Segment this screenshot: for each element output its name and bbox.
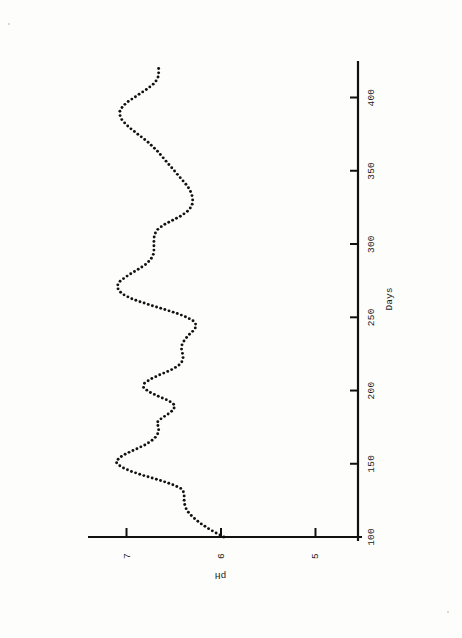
data-point-dot — [185, 507, 188, 510]
data-point-dot — [123, 103, 126, 106]
data-point-dot — [157, 428, 160, 431]
y-axis-title: pH — [215, 570, 226, 581]
data-point-dot — [123, 121, 126, 124]
data-point-dot — [184, 315, 187, 318]
data-point-dot — [147, 475, 150, 478]
data-point-dot — [124, 453, 127, 456]
data-point-dot — [185, 336, 188, 339]
data-point-dot — [180, 360, 183, 363]
data-point-dot — [158, 373, 161, 376]
data-point-dot — [133, 270, 136, 273]
data-point-dot — [144, 263, 147, 266]
data-point-dot — [179, 176, 182, 179]
data-point-dot — [182, 179, 185, 182]
data-point-dot — [155, 306, 158, 309]
data-point-dot — [120, 118, 123, 121]
data-point-dot — [115, 461, 118, 464]
data-point-dot — [183, 212, 186, 215]
chart-canvas — [66, 49, 396, 589]
data-point-dot — [147, 379, 150, 382]
data-point-dot — [162, 372, 165, 375]
data-point-dot — [137, 268, 140, 271]
data-point-dot — [192, 319, 195, 322]
data-point-dot — [159, 307, 162, 310]
data-point-dot — [200, 522, 203, 525]
data-point-dot — [156, 228, 159, 231]
data-point-dot — [122, 466, 125, 469]
data-point-dot — [154, 375, 157, 378]
data-point-dot — [162, 156, 165, 159]
data-point-dot — [142, 474, 145, 477]
x-axis-tick-label: 400 — [366, 89, 377, 107]
data-point-dot — [160, 417, 163, 420]
data-point-dot — [180, 314, 183, 317]
data-point-dot — [178, 364, 181, 367]
data-point-dot — [174, 366, 177, 369]
data-point-dot — [175, 217, 178, 220]
data-point-dot — [119, 280, 122, 283]
data-point-dot — [156, 150, 159, 153]
data-point-dot — [157, 67, 160, 70]
data-point-dot — [163, 308, 166, 311]
x-axis-ticks — [350, 98, 358, 537]
data-point-dot — [165, 398, 168, 401]
data-point-dot — [117, 287, 120, 290]
data-point-dot — [130, 470, 133, 473]
data-point-dot — [176, 312, 179, 315]
data-point-dot — [132, 449, 135, 452]
scan-speck — [447, 611, 449, 613]
data-point-dot — [181, 343, 184, 346]
data-point-dot — [180, 348, 183, 351]
y-axis-tick-label: 6 — [216, 553, 227, 559]
y-axis-tick-label: 5 — [310, 553, 321, 559]
data-point-dot — [190, 514, 193, 517]
data-point-dot — [157, 395, 160, 398]
data-point-dot — [121, 106, 124, 109]
data-point-dot — [161, 396, 164, 399]
data-point-dot — [207, 527, 210, 530]
data-point-dot — [159, 479, 162, 482]
data-point-dot — [186, 210, 189, 213]
data-point-dot — [153, 393, 156, 396]
data-point-dot — [127, 100, 130, 103]
data-point-dot — [139, 300, 142, 303]
data-point-dot — [183, 494, 186, 497]
data-point-dot — [134, 299, 137, 302]
data-point-dot — [126, 468, 129, 471]
scanned-page: 100150200250300350400 567 Days pH Figure… — [0, 0, 462, 638]
data-point-dot — [118, 464, 121, 467]
data-point-dot — [194, 323, 197, 326]
data-point-dot — [182, 356, 185, 359]
data-point-dot — [183, 499, 186, 502]
data-point-dot — [169, 400, 172, 403]
data-point-dot — [163, 415, 166, 418]
data-point-dot — [167, 412, 170, 415]
data-point-dot — [128, 451, 131, 454]
data-point-dot — [152, 249, 155, 252]
data-point-dot — [191, 203, 194, 206]
data-point-dot — [140, 265, 143, 268]
data-point-dot — [159, 153, 162, 156]
data-point-dot — [182, 490, 185, 493]
data-point-dot — [183, 503, 186, 506]
x-axis-tick-label: 300 — [366, 235, 377, 253]
data-point-dot — [134, 471, 137, 474]
data-point-dot — [152, 253, 155, 256]
data-point-dot — [122, 277, 125, 280]
data-point-dot — [171, 483, 174, 486]
data-point-dot — [118, 110, 121, 113]
data-point-dot — [126, 125, 129, 128]
data-point-dot — [147, 260, 150, 263]
data-point-dot — [191, 194, 194, 197]
data-point-dot — [134, 95, 137, 98]
data-point-dot — [143, 382, 146, 385]
data-point-dot — [165, 160, 168, 163]
data-point-dot — [148, 85, 151, 88]
data-point-dot — [219, 534, 222, 537]
figure-rotated-container: 100150200250300350400 567 Days pH — [66, 49, 396, 589]
data-point-dot — [135, 447, 138, 450]
data-point-dot — [138, 473, 141, 476]
data-point-dot — [222, 536, 225, 539]
data-point-dot — [188, 317, 191, 320]
data-point-dot — [171, 219, 174, 222]
